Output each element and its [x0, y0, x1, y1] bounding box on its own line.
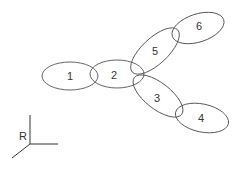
node-1: 1 — [42, 62, 98, 90]
label-2: 2 — [111, 69, 117, 81]
label-6: 6 — [196, 20, 202, 32]
axis-diagonal — [12, 144, 30, 158]
node-3: 3 — [126, 67, 189, 124]
ellipse-chain-diagram: 1 2 3 4 5 6 R — [0, 0, 240, 171]
coordinate-axes: R — [12, 115, 58, 158]
label-4: 4 — [198, 112, 204, 124]
axis-label-r: R — [19, 130, 27, 142]
node-5: 5 — [123, 20, 186, 81]
label-1: 1 — [67, 70, 73, 82]
label-5: 5 — [152, 45, 158, 57]
label-3: 3 — [154, 92, 160, 104]
